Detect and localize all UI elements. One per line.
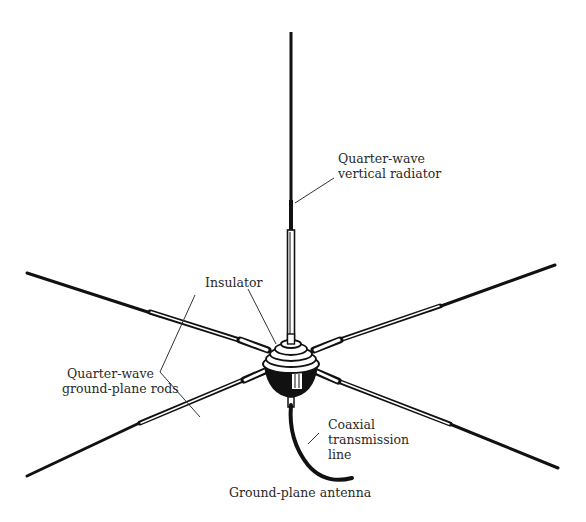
label-insulator: Insulator (205, 275, 262, 290)
antenna-drawing (0, 0, 586, 522)
rod-upper-right (314, 265, 555, 350)
figure-caption: Ground-plane antenna (229, 485, 371, 500)
label-coaxial-line: Coaxial transmission line (328, 417, 409, 462)
vertical-radiator (288, 32, 295, 340)
label-ground-plane-rods: Quarter-wave ground-plane rods (62, 366, 154, 396)
ground-plane-antenna-diagram: Quarter-wave vertical radiator Insulator… (0, 0, 586, 522)
insulator-hub (263, 334, 319, 407)
label-vertical-radiator: Quarter-wave vertical radiator (338, 151, 441, 181)
